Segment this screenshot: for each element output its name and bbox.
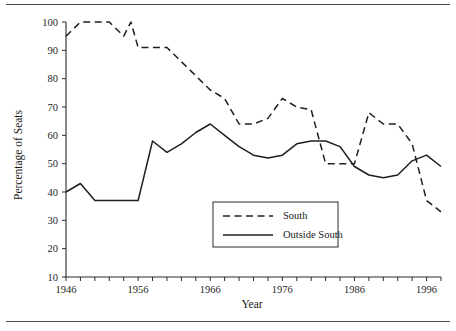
- y-tick-label: 60: [48, 130, 59, 141]
- x-tick-label: 1996: [416, 284, 437, 295]
- y-tick-label: 100: [42, 17, 58, 28]
- y-tick-label: 50: [48, 158, 59, 169]
- x-axis-tickmarks: [66, 277, 441, 281]
- x-tick-label: 1976: [272, 284, 293, 295]
- chart-legend: South Outside South: [213, 202, 344, 247]
- x-tick-label: 1986: [344, 284, 365, 295]
- series-line-outside-south: [66, 124, 441, 201]
- x-axis-title: Year: [241, 298, 262, 310]
- y-tick-label: 30: [48, 215, 59, 226]
- y-tick-label: 80: [48, 73, 59, 84]
- legend-label-south: South: [283, 210, 308, 221]
- y-tick-label: 90: [48, 45, 59, 56]
- y-tick-label: 70: [48, 102, 59, 113]
- legend-label-outside-south: Outside South: [283, 229, 344, 240]
- chart-figure: 102030405060708090100 194619561966197619…: [0, 0, 456, 331]
- y-axis-tickmarks: [62, 22, 66, 277]
- x-tick-label: 1956: [128, 284, 149, 295]
- line-chart-svg: 102030405060708090100 194619561966197619…: [0, 0, 456, 331]
- series-line-south: [66, 22, 441, 212]
- y-axis-title: Percentage of Seats: [12, 109, 25, 200]
- y-tick-label: 10: [48, 272, 59, 283]
- x-tick-label: 1946: [56, 284, 77, 295]
- y-axis-tick-labels: 102030405060708090100: [42, 17, 58, 283]
- x-axis-tick-labels: 194619561966197619861996: [56, 284, 438, 295]
- y-tick-label: 20: [48, 243, 59, 254]
- y-tick-label: 40: [48, 187, 59, 198]
- legend-box: [213, 202, 338, 247]
- x-tick-label: 1966: [200, 284, 221, 295]
